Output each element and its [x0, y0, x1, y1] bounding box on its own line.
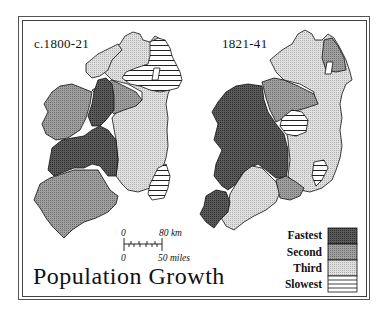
map-1821-41: [200, 30, 352, 230]
legend-swatch-third: [328, 260, 357, 276]
period-label-left: c.1800-21: [34, 36, 89, 52]
legend-label-fastest: Fastest: [252, 229, 322, 241]
legend-swatches: [328, 228, 357, 292]
region-second-antrim: [322, 38, 346, 72]
region-second-southwest: [34, 170, 118, 238]
legend-label-third: Third: [252, 262, 322, 274]
scale-bar: [124, 238, 162, 251]
legend-swatch-fastest: [328, 228, 357, 244]
legend-swatch-second: [328, 244, 357, 260]
legend-label-second: Second: [252, 246, 322, 258]
map-1800-21: [34, 32, 182, 238]
scale-miles-start: 0: [121, 253, 126, 263]
period-label-right: 1821-41: [222, 36, 267, 52]
region-second-west: [42, 84, 92, 140]
main-title: Population Growth: [33, 263, 225, 290]
scale-km-end: 80 km: [159, 228, 182, 238]
scale-km-start: 0: [121, 228, 126, 238]
scale-miles-end: 50 miles: [158, 253, 190, 263]
region-fastest-central: [88, 78, 114, 126]
legend-label-slowest: Slowest: [252, 278, 322, 290]
